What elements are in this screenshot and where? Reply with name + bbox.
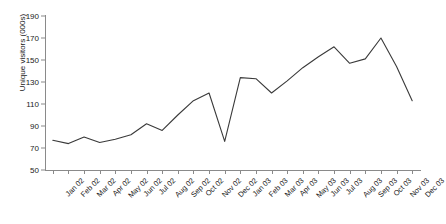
y-tick-label: 70 <box>30 144 45 153</box>
y-tick-label: 130 <box>26 78 45 87</box>
x-tick-mark <box>115 170 116 174</box>
x-tick-mark <box>84 170 85 174</box>
x-tick-mark <box>256 170 257 174</box>
x-tick-mark <box>100 170 101 174</box>
x-tick-mark <box>287 170 288 174</box>
x-tick-mark <box>68 170 69 174</box>
x-tick-mark <box>381 170 382 174</box>
x-tick-mark <box>334 170 335 174</box>
x-tick-mark <box>365 170 366 174</box>
x-tick-mark <box>209 170 210 174</box>
x-tick-mark <box>53 170 54 174</box>
y-tick-label: 150 <box>26 56 45 65</box>
x-tick-mark <box>178 170 179 174</box>
x-tick-mark <box>412 170 413 174</box>
x-tick-mark <box>240 170 241 174</box>
y-tick-label: 90 <box>30 122 45 131</box>
x-tick-mark <box>193 170 194 174</box>
x-tick-mark <box>303 170 304 174</box>
y-tick-label: 110 <box>26 100 45 109</box>
x-tick-mark <box>131 170 132 174</box>
x-tick-mark <box>147 170 148 174</box>
x-tick-mark <box>397 170 398 174</box>
x-tick-mark <box>318 170 319 174</box>
y-tick-label: 170 <box>26 34 45 43</box>
series-line <box>45 16 420 170</box>
y-tick-label: 190 <box>26 12 45 21</box>
x-tick-mark <box>350 170 351 174</box>
plot-area: 507090110130150170190 <box>45 16 420 170</box>
x-tick-mark <box>272 170 273 174</box>
x-tick-mark <box>225 170 226 174</box>
x-tick-mark <box>162 170 163 174</box>
y-tick-label: 50 <box>30 166 45 175</box>
